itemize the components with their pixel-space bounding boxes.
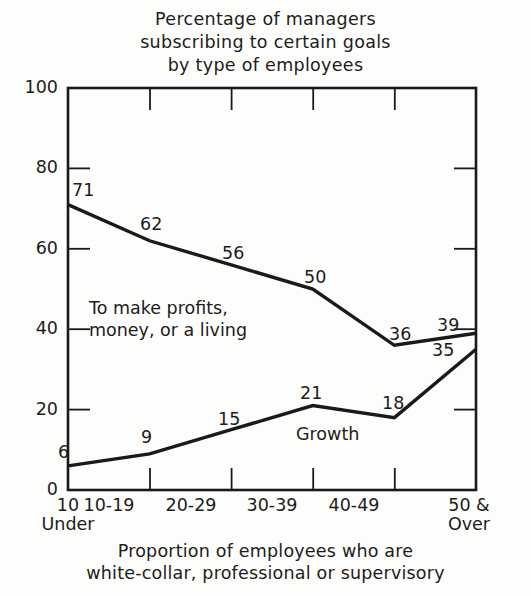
plot-frame: [68, 88, 476, 490]
data-label-growth-5: 35: [432, 341, 454, 360]
x-tick-label-50-over: 50 & Over: [421, 496, 517, 534]
chart-figure: Percentage of managers subscribing to ce…: [0, 0, 531, 596]
right-axis-ticks: [454, 168, 476, 409]
x-tick-label-50-over-main: 50 &: [448, 495, 489, 515]
data-label-growth-3: 21: [300, 384, 322, 403]
data-label-profits-5: 39: [437, 316, 459, 335]
y-tick-label-20: 20: [4, 400, 58, 419]
x-tick-label-50-over-sub: Over: [421, 515, 517, 534]
series-annotation-growth: Growth: [296, 423, 359, 445]
y-tick-label-80: 80: [4, 158, 58, 177]
data-label-profits-1: 62: [140, 215, 162, 234]
data-label-growth-4: 18: [382, 394, 404, 413]
x-tick-label-40-49-main: 40-49: [329, 495, 380, 515]
x-tick-label-under-10-sub: Under: [20, 515, 116, 534]
data-label-growth-2: 15: [218, 410, 240, 429]
y-tick-label-40: 40: [4, 319, 58, 338]
top-axis-ticks: [150, 88, 395, 110]
data-label-profits-0: 71: [72, 181, 94, 200]
series-annotation-growth-line-1: Growth: [296, 423, 359, 445]
series-annotation-profits: To make profits, money, or a living: [89, 297, 247, 341]
x-axis-title: Proportion of employees who are white-co…: [0, 540, 531, 584]
data-label-growth-0: 6: [58, 443, 69, 462]
data-label-profits-4: 36: [389, 325, 411, 344]
data-label-profits-2: 56: [222, 244, 244, 263]
bottom-axis-ticks: [150, 468, 395, 490]
x-tick-label-40-49: 40-49: [306, 496, 402, 515]
series-annotation-profits-line-1: To make profits,: [89, 297, 247, 319]
series-annotation-profits-line-2: money, or a living: [89, 319, 247, 341]
series-line-growth: [68, 349, 476, 466]
x-tick-label-20-29-main: 20-29: [166, 495, 217, 515]
data-label-profits-3: 50: [304, 268, 326, 287]
y-tick-label-60: 60: [4, 239, 58, 258]
x-tick-label-10-19-main: 10-19: [84, 495, 135, 515]
x-axis-title-line-1: Proportion of employees who are: [0, 540, 531, 562]
data-label-growth-1: 9: [141, 428, 152, 447]
x-axis-title-line-2: white-collar, professional or supervisor…: [0, 562, 531, 584]
y-tick-label-100: 100: [4, 78, 58, 97]
x-tick-label-30-39-main: 30-39: [247, 495, 298, 515]
